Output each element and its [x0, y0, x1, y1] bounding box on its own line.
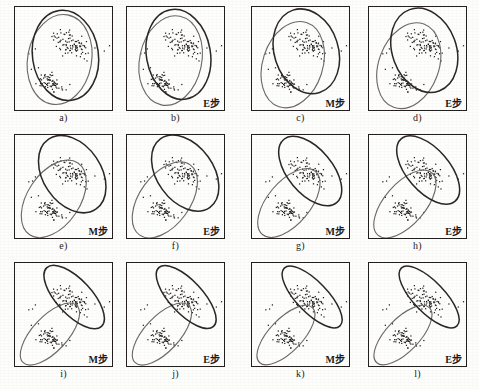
panel-caption-g: g)	[251, 240, 350, 251]
panel-g: M步g)	[251, 134, 351, 256]
panel-box-j: E步	[126, 262, 225, 367]
panel-caption-h: h)	[368, 240, 467, 251]
panel-caption-c: c)	[251, 112, 350, 123]
step-label-i: M步	[89, 354, 108, 365]
panel-box-k: M步	[251, 262, 350, 367]
panel-box-g: M步	[251, 134, 350, 239]
panel-caption-e: e)	[14, 240, 113, 251]
panel-h: E步h)	[368, 134, 468, 256]
step-label-f: E步	[203, 226, 220, 237]
em-algorithm-figure: a)E步b)M步c)E步d)M步e)E步f)M步g)E步h)M步i)E步j)M步…	[0, 0, 479, 389]
panel-plot-e	[15, 135, 112, 238]
step-label-b: E步	[203, 98, 220, 109]
panel-plot-c	[252, 7, 349, 110]
step-label-l: E步	[445, 354, 462, 365]
step-label-g: M步	[326, 226, 345, 237]
panel-row-1: a)E步b)M步c)E步d)	[0, 0, 479, 128]
panel-d: E步d)	[368, 6, 468, 128]
panel-caption-d: d)	[368, 112, 467, 123]
panel-a: a)	[14, 6, 114, 128]
panel-row-2: M步e)E步f)M步g)E步h)	[0, 128, 479, 256]
panel-plot-d	[369, 7, 466, 110]
panel-j: E步j)	[126, 262, 226, 384]
panel-c: M步c)	[251, 6, 351, 128]
panel-caption-b: b)	[126, 112, 225, 123]
panel-plot-a	[15, 7, 112, 110]
panel-plot-g	[252, 135, 349, 238]
panel-plot-h	[369, 135, 466, 238]
panel-e: M步e)	[14, 134, 114, 256]
panel-k: M步k)	[251, 262, 351, 384]
panel-b: E步b)	[126, 6, 226, 128]
panel-caption-j: j)	[126, 368, 225, 379]
panel-caption-k: k)	[251, 368, 350, 379]
panel-box-l: E步	[368, 262, 467, 367]
step-label-e: M步	[89, 226, 108, 237]
panel-caption-a: a)	[14, 112, 113, 123]
panel-box-h: E步	[368, 134, 467, 239]
panel-caption-l: l)	[368, 368, 467, 379]
panel-box-c: M步	[251, 6, 350, 111]
panel-plot-i	[15, 263, 112, 366]
panel-plot-j	[127, 263, 224, 366]
panel-row-3: M步i)E步j)M步k)E步l)	[0, 256, 479, 384]
panel-i: M步i)	[14, 262, 114, 384]
panel-caption-f: f)	[126, 240, 225, 251]
panel-box-e: M步	[14, 134, 113, 239]
panel-f: E步f)	[126, 134, 226, 256]
step-label-j: E步	[203, 354, 220, 365]
step-label-d: E步	[445, 98, 462, 109]
step-label-c: M步	[326, 98, 345, 109]
panel-l: E步l)	[368, 262, 468, 384]
step-label-k: M步	[326, 354, 345, 365]
panel-caption-i: i)	[14, 368, 113, 379]
panel-box-i: M步	[14, 262, 113, 367]
panel-box-f: E步	[126, 134, 225, 239]
panel-plot-l	[369, 263, 466, 366]
panel-box-a	[14, 6, 113, 111]
step-label-h: E步	[445, 226, 462, 237]
panel-box-b: E步	[126, 6, 225, 111]
panel-box-d: E步	[368, 6, 467, 111]
panel-plot-k	[252, 263, 349, 366]
panel-plot-f	[127, 135, 224, 238]
panel-plot-b	[127, 7, 224, 110]
